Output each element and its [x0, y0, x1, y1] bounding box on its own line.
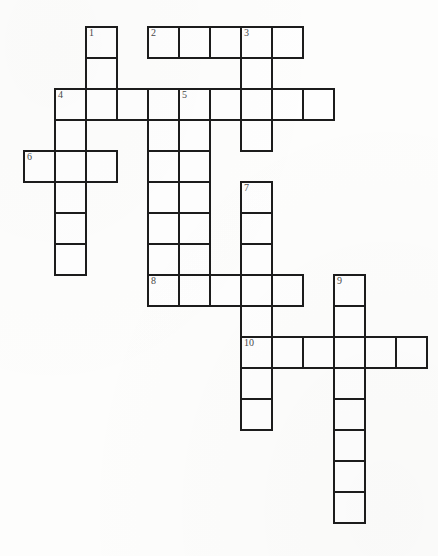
crossword-cell-numbered-7[interactable]: 7 — [240, 181, 273, 214]
crossword-cell[interactable] — [178, 243, 211, 276]
crossword-cell[interactable] — [240, 305, 273, 338]
crossword-cell-numbered-1[interactable]: 1 — [85, 26, 118, 59]
crossword-cell[interactable] — [147, 88, 180, 121]
crossword-cell[interactable] — [209, 88, 242, 121]
crossword-cell[interactable] — [54, 150, 87, 183]
crossword-cell[interactable] — [271, 88, 304, 121]
crossword-cell-numbered-9[interactable]: 9 — [333, 274, 366, 307]
crossword-cell[interactable] — [147, 181, 180, 214]
crossword-cell[interactable] — [85, 150, 118, 183]
crossword-cell[interactable] — [333, 305, 366, 338]
crossword-cell[interactable] — [240, 243, 273, 276]
crossword-cell[interactable] — [147, 119, 180, 152]
crossword-cell-numbered-3[interactable]: 3 — [240, 26, 273, 59]
crossword-grid[interactable]: 12345678910 — [0, 0, 438, 556]
clue-number-3: 3 — [244, 27, 249, 39]
crossword-cell-numbered-4[interactable]: 4 — [54, 88, 87, 121]
crossword-cell[interactable] — [333, 491, 366, 524]
crossword-cell-numbered-5[interactable]: 5 — [178, 88, 211, 121]
crossword-cell-numbered-10[interactable]: 10 — [240, 336, 273, 369]
crossword-cell[interactable] — [178, 119, 211, 152]
crossword-cell[interactable] — [271, 274, 304, 307]
crossword-cell[interactable] — [240, 367, 273, 400]
crossword-cell[interactable] — [178, 181, 211, 214]
crossword-cell[interactable] — [147, 212, 180, 245]
crossword-cell[interactable] — [240, 212, 273, 245]
crossword-cell[interactable] — [333, 367, 366, 400]
clue-number-8: 8 — [151, 275, 156, 287]
crossword-cell[interactable] — [209, 26, 242, 59]
crossword-cell[interactable] — [333, 429, 366, 462]
crossword-cell[interactable] — [147, 243, 180, 276]
crossword-cell[interactable] — [54, 181, 87, 214]
crossword-cell[interactable] — [333, 398, 366, 431]
crossword-cell[interactable] — [364, 336, 397, 369]
crossword-cell[interactable] — [302, 336, 335, 369]
clue-number-4: 4 — [58, 89, 63, 101]
crossword-cell-numbered-6[interactable]: 6 — [23, 150, 56, 183]
crossword-cell[interactable] — [240, 398, 273, 431]
crossword-cell[interactable] — [333, 336, 366, 369]
crossword-cell[interactable] — [178, 150, 211, 183]
crossword-cell[interactable] — [54, 243, 87, 276]
crossword-cell[interactable] — [178, 212, 211, 245]
crossword-cell[interactable] — [240, 57, 273, 90]
clue-number-1: 1 — [89, 27, 94, 39]
crossword-cell[interactable] — [271, 26, 304, 59]
crossword-cell[interactable] — [147, 150, 180, 183]
clue-number-6: 6 — [27, 151, 32, 163]
crossword-cell[interactable] — [302, 88, 335, 121]
clue-number-7: 7 — [244, 182, 249, 194]
crossword-cell[interactable] — [240, 119, 273, 152]
crossword-cell[interactable] — [240, 88, 273, 121]
crossword-cell[interactable] — [178, 26, 211, 59]
crossword-cell[interactable] — [54, 212, 87, 245]
crossword-puzzle: 12345678910 — [0, 0, 438, 556]
crossword-cell[interactable] — [85, 57, 118, 90]
crossword-cell[interactable] — [85, 88, 118, 121]
crossword-cell[interactable] — [395, 336, 428, 369]
crossword-cell-numbered-2[interactable]: 2 — [147, 26, 180, 59]
crossword-cell[interactable] — [209, 274, 242, 307]
crossword-cell[interactable] — [271, 336, 304, 369]
crossword-cell-numbered-8[interactable]: 8 — [147, 274, 180, 307]
clue-number-9: 9 — [337, 275, 342, 287]
crossword-cell[interactable] — [178, 274, 211, 307]
crossword-cell[interactable] — [54, 119, 87, 152]
crossword-cell[interactable] — [240, 274, 273, 307]
crossword-cell[interactable] — [116, 88, 149, 121]
clue-number-10: 10 — [244, 337, 254, 349]
crossword-cell[interactable] — [333, 460, 366, 493]
clue-number-5: 5 — [182, 89, 187, 101]
clue-number-2: 2 — [151, 27, 156, 39]
